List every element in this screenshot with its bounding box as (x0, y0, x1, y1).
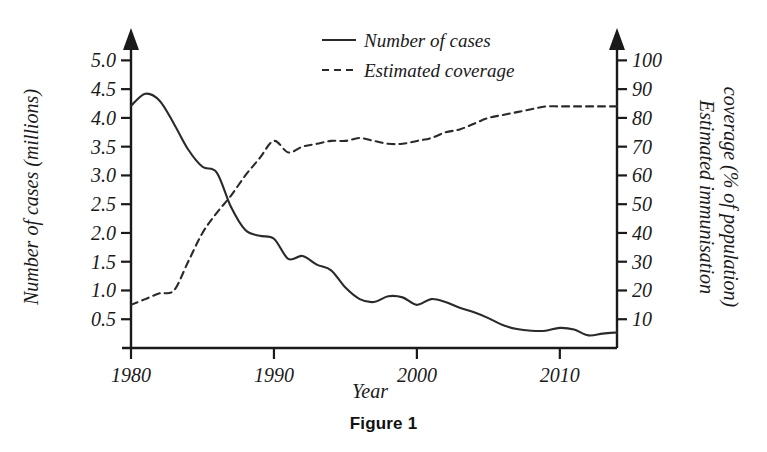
y-axis-left-tick-label: 0.5 (91, 308, 116, 330)
y-axis-right-tick-label: 80 (632, 107, 652, 129)
chart-canvas: 0.51.01.52.02.53.03.54.04.55.0 102030405… (0, 0, 767, 452)
y-axis-right-tick-label: 100 (632, 49, 662, 71)
x-axis-tick-label: 2000 (397, 364, 437, 386)
x-axis-title: Year (352, 380, 388, 402)
y-axis-left-tick-label: 3.5 (90, 136, 116, 158)
y-axis-right-tick-label: 10 (632, 308, 652, 330)
x-axis-ticks: 1980199020002010 (111, 348, 580, 386)
y-axis-right-tick-label: 50 (632, 193, 652, 215)
y-axis-left-arrowhead (123, 28, 139, 50)
y-axis-left-tick-label: 5.0 (91, 49, 116, 71)
series-line-coverage (131, 106, 617, 305)
y-axis-left-title: Number of cases (millions) (20, 89, 43, 306)
y-axis-right-tick-label: 70 (632, 136, 652, 158)
y-axis-right-tick-label: 20 (632, 279, 652, 301)
x-axis-tick-label: 2010 (540, 364, 580, 386)
y-axis-right-tick-label: 40 (632, 222, 652, 244)
y-axis-left-ticks: 0.51.01.52.02.53.03.54.04.55.0 (90, 49, 131, 330)
y-axis-left-tick-label: 3.0 (90, 164, 116, 186)
y-axis-right-title-line2: coverage (% of population) (719, 87, 742, 308)
y-axis-right-tick-label: 60 (632, 164, 652, 186)
y-axis-left-tick-label: 4.0 (91, 107, 116, 129)
x-axis-tick-label: 1980 (111, 364, 151, 386)
y-axis-right-arrowhead (609, 28, 625, 50)
y-axis-left-tick-label: 2.5 (91, 193, 116, 215)
data-series-group (131, 94, 617, 336)
y-axis-right-ticks: 102030405060708090100 (617, 49, 662, 330)
figure-container: 0.51.01.52.02.53.03.54.04.55.0 102030405… (0, 0, 767, 452)
legend-label: Estimated coverage (363, 60, 514, 81)
figure-caption: Figure 1 (0, 414, 767, 434)
y-axis-left-tick-label: 2.0 (91, 222, 116, 244)
y-axis-right-tick-label: 90 (632, 78, 652, 100)
legend-label: Number of cases (363, 30, 491, 51)
x-axis-tick-label: 1990 (254, 364, 294, 386)
chart-legend: Number of casesEstimated coverage (322, 30, 514, 81)
series-line-cases (131, 94, 617, 336)
y-axis-right-title-line1: Estimated immunisation (696, 99, 718, 294)
y-axis-left-tick-label: 1.0 (91, 279, 116, 301)
y-axis-left-tick-label: 4.5 (91, 78, 116, 100)
y-axis-right-tick-label: 30 (631, 251, 652, 273)
y-axis-left-tick-label: 1.5 (91, 251, 116, 273)
